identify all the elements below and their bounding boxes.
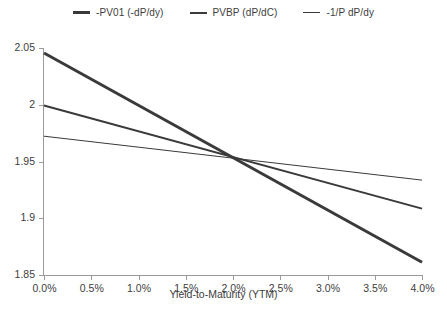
x-axis-title: Yield-to-Maturity (YTM) (0, 288, 447, 300)
x-tick-0: 0.0% (44, 275, 45, 280)
series-layer (44, 48, 422, 275)
y-tick-label-0: 2.05 (15, 41, 35, 53)
legend-swatch-modified-duration-icon (303, 12, 320, 13)
legend-item-pv01[interactable]: -PV01 (-dP/dy) (73, 7, 164, 18)
legend-item-pvbp[interactable]: PVBP (dP/dC) (190, 7, 278, 18)
y-tick-label-1: 2 (29, 98, 35, 110)
legend-label-modified-duration: -1/P dP/dy (326, 7, 374, 18)
y-tick-label-3: 1.9 (20, 211, 35, 223)
series-line-pvbp-dp-dc (44, 106, 422, 209)
legend-swatch-pv01-icon (73, 11, 90, 14)
x-tick-8: 4.0% (422, 275, 423, 280)
plot-area: 2.05 2 1.95 1.9 1.85 0.0% 0.5% 1.0% 1.5%… (44, 48, 422, 275)
x-tick-5: 2.5% (280, 275, 281, 280)
legend-item-modified-duration[interactable]: -1/P dP/dy (303, 7, 374, 18)
x-tick-2: 1.0% (139, 275, 140, 280)
x-tick-1: 0.5% (91, 275, 92, 280)
legend-swatch-pvbp-icon (190, 12, 207, 14)
x-tick-3: 1.5% (186, 275, 187, 280)
y-tick-label-2: 1.95 (15, 155, 35, 167)
y-tick-label-4: 1.85 (15, 268, 35, 280)
x-tick-6: 3.0% (328, 275, 329, 280)
legend-label-pv01: -PV01 (-dP/dy) (96, 7, 164, 18)
x-tick-7: 3.5% (375, 275, 376, 280)
series-line-1-p-dp-dy (44, 136, 422, 180)
chart-container: -PV01 (-dP/dy) PVBP (dP/dC) -1/P dP/dy 2… (0, 0, 447, 322)
legend-label-pvbp: PVBP (dP/dC) (213, 7, 278, 18)
chart-legend: -PV01 (-dP/dy) PVBP (dP/dC) -1/P dP/dy (0, 7, 447, 18)
x-tick-4: 2.0% (233, 275, 234, 280)
